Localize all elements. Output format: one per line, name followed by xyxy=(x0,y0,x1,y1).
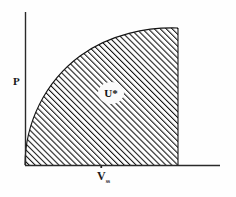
x-axis-label-text: V xyxy=(97,169,106,183)
x-axis-label-main: V xyxy=(97,170,106,182)
region-label: U* xyxy=(98,82,124,104)
region-label-text: U* xyxy=(104,87,117,99)
figure-container: P V ss U* xyxy=(0,0,236,197)
x-axis-label-subscript: ss xyxy=(106,178,110,184)
y-axis-label-text: P xyxy=(13,75,20,87)
x-axis-label: V ss xyxy=(97,170,110,184)
overdot-icon xyxy=(101,166,103,168)
y-axis-label: P xyxy=(13,76,20,87)
